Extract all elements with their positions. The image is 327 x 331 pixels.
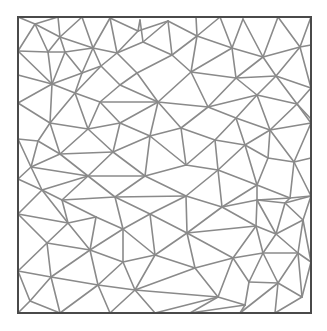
mesh-edge — [158, 102, 181, 128]
mesh-edge — [186, 140, 215, 165]
mesh-edge — [300, 47, 311, 88]
mesh-edge — [191, 48, 232, 72]
mesh-edge — [187, 233, 195, 268]
mesh-edge — [218, 297, 245, 305]
mesh-edge — [18, 301, 30, 313]
mesh-edge — [90, 250, 123, 262]
mesh-edge — [232, 48, 236, 78]
mesh-edge — [245, 130, 270, 145]
mesh-edge — [263, 234, 276, 253]
mesh-edge — [93, 48, 101, 66]
mesh-edge — [257, 200, 285, 203]
mesh-edge — [158, 102, 208, 107]
mesh-edge — [150, 102, 158, 136]
mesh-edge — [303, 220, 311, 262]
mesh-edge — [257, 76, 276, 95]
mesh-edge — [88, 102, 100, 129]
mesh-edge — [145, 165, 186, 176]
mesh-edge — [100, 102, 120, 123]
mesh-edge — [268, 158, 294, 162]
mesh-edge — [270, 130, 294, 162]
mesh-edge — [236, 57, 263, 78]
mesh-edge — [278, 17, 300, 47]
mesh-edges — [18, 17, 311, 313]
mesh-edge — [31, 141, 38, 167]
mesh-edge — [82, 17, 93, 48]
mesh-edge — [48, 52, 52, 84]
mesh-edge — [18, 51, 48, 52]
mesh-edge — [62, 200, 96, 217]
mesh-edge — [138, 21, 168, 31]
mesh-edge — [18, 243, 47, 271]
mesh-edge — [275, 283, 278, 313]
mesh-edge — [257, 95, 270, 130]
mesh-edge — [186, 196, 222, 207]
mesh-edge — [51, 277, 60, 313]
mesh-edge — [75, 93, 88, 129]
mesh-edge — [117, 42, 143, 53]
mesh-edge — [60, 37, 93, 48]
mesh-edge — [158, 72, 191, 102]
mesh-edge — [263, 17, 278, 57]
mesh-edge — [297, 88, 311, 104]
mesh-edge — [236, 78, 257, 95]
mesh-edge — [38, 123, 50, 141]
mesh-edge — [115, 197, 150, 214]
mesh-edge — [191, 72, 208, 107]
mesh-edge — [123, 255, 155, 262]
mesh-edge — [62, 197, 115, 200]
mesh-edge — [98, 285, 135, 290]
mesh-edge — [50, 84, 52, 123]
mesh-edge — [195, 268, 218, 297]
mesh-edge — [155, 233, 187, 255]
mesh-edge — [191, 36, 197, 72]
mesh-edge — [220, 17, 232, 48]
mesh-edge — [135, 255, 155, 290]
mesh-edge — [113, 123, 120, 152]
mesh-edge — [236, 118, 270, 130]
mesh-edge — [145, 176, 186, 196]
mesh-edge — [50, 93, 75, 123]
triangular-mesh-diagram — [0, 0, 327, 331]
mesh-edge — [110, 18, 117, 53]
mesh-edge — [256, 200, 257, 226]
mesh-edge — [155, 255, 195, 268]
mesh-edge — [150, 214, 187, 233]
mesh-edge — [135, 268, 195, 290]
mesh-edge — [236, 118, 245, 145]
mesh-edge — [145, 136, 150, 176]
mesh-edge — [88, 129, 113, 152]
mesh-canvas — [0, 0, 327, 331]
mesh-edge — [60, 17, 82, 37]
mesh-edge — [191, 72, 236, 78]
mesh-edge — [135, 290, 155, 313]
mesh-edge — [18, 271, 30, 301]
mesh-edge — [300, 45, 311, 47]
mesh-edge — [123, 262, 135, 290]
mesh-edge — [135, 290, 218, 297]
mesh-edge — [150, 136, 186, 165]
mesh-edge — [208, 78, 236, 107]
mesh-edge — [47, 243, 51, 277]
mesh-edge — [18, 17, 35, 24]
mesh-edge — [298, 220, 303, 253]
mesh-edge — [218, 170, 257, 185]
mesh-edge — [18, 167, 31, 179]
mesh-edge — [115, 196, 186, 197]
mesh-edge — [90, 217, 96, 250]
mesh-edge — [68, 223, 90, 250]
mesh-edge — [257, 200, 276, 234]
mesh-edge — [88, 123, 120, 129]
mesh-edge — [218, 145, 245, 170]
mesh-edge — [60, 152, 113, 154]
mesh-edge — [90, 250, 98, 285]
mesh-edge — [302, 262, 311, 297]
mesh-edge — [168, 21, 172, 55]
mesh-edge — [65, 48, 93, 52]
mesh-edge — [294, 162, 311, 196]
mesh-edge — [257, 158, 268, 185]
mesh-edge — [294, 158, 311, 162]
mesh-edge — [278, 253, 298, 283]
mesh-edge — [123, 229, 155, 255]
mesh-edge — [263, 253, 278, 283]
